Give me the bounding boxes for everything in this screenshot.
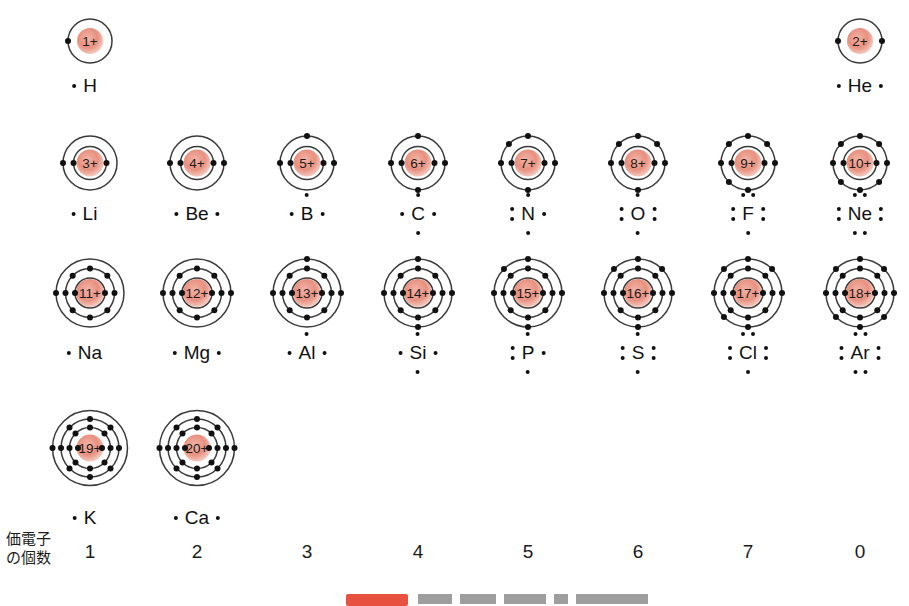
valence-dot (174, 516, 178, 520)
nucleus-charge-label: 18+ (849, 286, 872, 301)
electron-dot (63, 290, 69, 296)
valence-count-col-1: 1 (85, 541, 96, 563)
electron-dot (525, 266, 531, 272)
electron-dot (745, 315, 751, 321)
electron-dot (167, 160, 173, 166)
valence-dot (840, 356, 844, 360)
electron-dot (157, 445, 163, 451)
atom-diagram-be: 4+ (156, 122, 238, 204)
valence-label-line-2: の個数 (6, 549, 78, 568)
electron-dot (729, 160, 735, 166)
electron-dot (67, 445, 73, 451)
lewis-symbol-f: F (740, 203, 756, 225)
electron-dot (542, 307, 548, 313)
electron-dot (319, 290, 325, 296)
electron-dot (876, 141, 882, 147)
electron-dot (116, 445, 122, 451)
electron-dot (525, 256, 531, 262)
electron-dot (508, 307, 514, 313)
electron-dot (509, 160, 515, 166)
element-symbol-text: Al (297, 342, 318, 364)
electron-dot (209, 290, 215, 296)
atom-diagram-al: 13+ (259, 245, 355, 341)
electron-dot (304, 315, 310, 321)
electron-dot (857, 256, 863, 262)
valence-dot (741, 332, 745, 336)
electron-dot (770, 290, 776, 296)
nucleus-charge-label: 8+ (630, 156, 646, 171)
bottom-red-tag (346, 594, 408, 606)
lewis-symbol-li: Li (81, 203, 100, 225)
electron-dot (108, 445, 114, 451)
electron-dot (721, 314, 727, 320)
valence-dot (216, 516, 220, 520)
valence-dot (620, 217, 624, 221)
electron-dot (87, 474, 93, 480)
element-symbol-text: Be (183, 203, 210, 225)
valence-dot (731, 217, 735, 221)
electron-dot (399, 160, 405, 166)
electron-dot (321, 273, 327, 279)
nucleus-charge-label: 11+ (79, 286, 101, 301)
electron-dot (102, 431, 108, 437)
electron-dot (288, 160, 294, 166)
lewis-symbol-ne: Ne (846, 203, 874, 225)
valence-dot (746, 231, 750, 235)
electron-dot (206, 445, 212, 451)
electron-dot (432, 273, 438, 279)
electron-dot (321, 160, 327, 166)
electron-dot (177, 273, 183, 279)
electron-dot (75, 445, 81, 451)
electron-dot (331, 160, 337, 166)
electron-dot (211, 160, 217, 166)
element-symbol-text: Na (76, 342, 104, 364)
atom-diagram-na: 11+ (42, 245, 138, 341)
electron-dot (71, 160, 77, 166)
electron-dot (381, 290, 387, 296)
lewis-symbol-cl: Cl (737, 342, 759, 364)
valence-dot (322, 351, 326, 355)
electron-dot (287, 307, 293, 313)
atom-diagram-si: 14+ (370, 245, 466, 341)
electron-dot (87, 315, 93, 321)
electron-dot (760, 290, 766, 296)
electron-dot (881, 266, 887, 272)
valence-dot (837, 207, 841, 211)
electron-dot (879, 38, 885, 44)
valence-dot (652, 217, 656, 221)
valence-dot (620, 207, 624, 211)
atom-diagram-ca: 20+ (146, 397, 249, 500)
electron-dot (762, 307, 768, 313)
valence-dot (728, 346, 732, 350)
valence-dot (320, 212, 324, 216)
electron-dot (635, 133, 641, 139)
electron-dot (173, 466, 179, 472)
electron-dot (104, 160, 110, 166)
lewis-symbol-b: B (299, 203, 316, 225)
nucleus-charge-label: 20+ (186, 441, 209, 456)
valence-dot (879, 217, 883, 221)
electron-dot (652, 273, 658, 279)
electron-dot (174, 445, 180, 451)
electron-dot (104, 307, 110, 313)
electron-dot (525, 324, 531, 330)
electron-dot (388, 160, 394, 166)
nucleus-charge-label: 7+ (520, 156, 536, 171)
electron-dot (506, 141, 512, 147)
electron-dot (501, 266, 507, 272)
valence-dot (837, 217, 841, 221)
electron-dot (841, 160, 847, 166)
nucleus-charge-label: 3+ (82, 156, 98, 171)
electron-dot (745, 133, 751, 139)
electron-dot (616, 141, 622, 147)
electron-dot (652, 307, 658, 313)
electron-dot (304, 256, 310, 262)
valence-count-col-2: 2 (192, 541, 203, 563)
electron-dot (842, 290, 848, 296)
valence-count-col-4: 4 (413, 541, 424, 563)
electron-dot (180, 460, 186, 466)
electron-dot (177, 307, 183, 313)
electron-dot (287, 273, 293, 279)
electron-dot (194, 425, 200, 431)
electron-dot (209, 460, 215, 466)
